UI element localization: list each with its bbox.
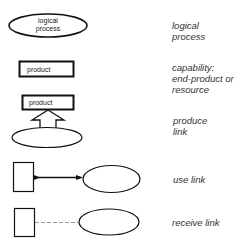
label-line: link [173,126,207,137]
label-use-link: use link [173,174,205,185]
label-line: produce [173,115,207,126]
label-receive-link: receive link [172,217,220,228]
capability-symbol: product [20,62,74,77]
symbol-text: process [36,25,61,33]
receive-link-symbol [15,209,140,237]
arrowhead-icon [76,175,83,180]
label-line: use link [173,174,205,185]
hollow-arrow-icon [32,110,64,129]
label-line: logical [172,20,205,31]
label-line: receive link [172,217,220,228]
symbol-text: product [27,66,50,74]
symbol-text: logical [38,17,58,25]
symbol-text: product [29,99,52,107]
label-capability: capability: end-product or resource [172,62,234,95]
label-line: end-product or [172,73,234,84]
use-link-symbol [14,163,141,193]
label-logical-process: logical process [172,20,205,42]
produce-link-symbol: product [12,96,82,148]
label-line: resource [172,84,234,95]
label-line: process [172,31,205,42]
label-produce-link: produce link [173,115,207,137]
logical-process-symbol: logical process [9,14,87,37]
label-line: capability: [172,62,234,73]
